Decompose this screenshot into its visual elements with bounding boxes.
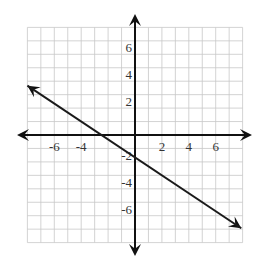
coordinate-plane: -6-4246642-2-4-6 [0, 0, 265, 264]
x-tick-label: -6 [49, 139, 60, 154]
y-tick-label: 6 [126, 40, 133, 55]
x-tick-label: 6 [212, 139, 219, 154]
y-tick-label: -4 [121, 175, 132, 190]
axes [17, 14, 252, 256]
x-tick-label: 2 [159, 139, 166, 154]
x-tick-label: -4 [76, 139, 87, 154]
y-tick-label: -6 [121, 202, 132, 217]
y-tick-label: 4 [126, 67, 133, 82]
x-tick-label: 4 [186, 139, 193, 154]
y-tick-label: 2 [126, 94, 133, 109]
